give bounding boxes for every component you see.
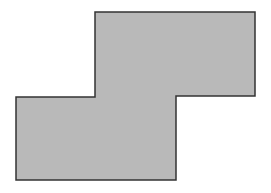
diagram-canvas bbox=[0, 0, 271, 193]
diagram-svg bbox=[0, 0, 271, 193]
z-shaped-polygon bbox=[16, 12, 255, 180]
